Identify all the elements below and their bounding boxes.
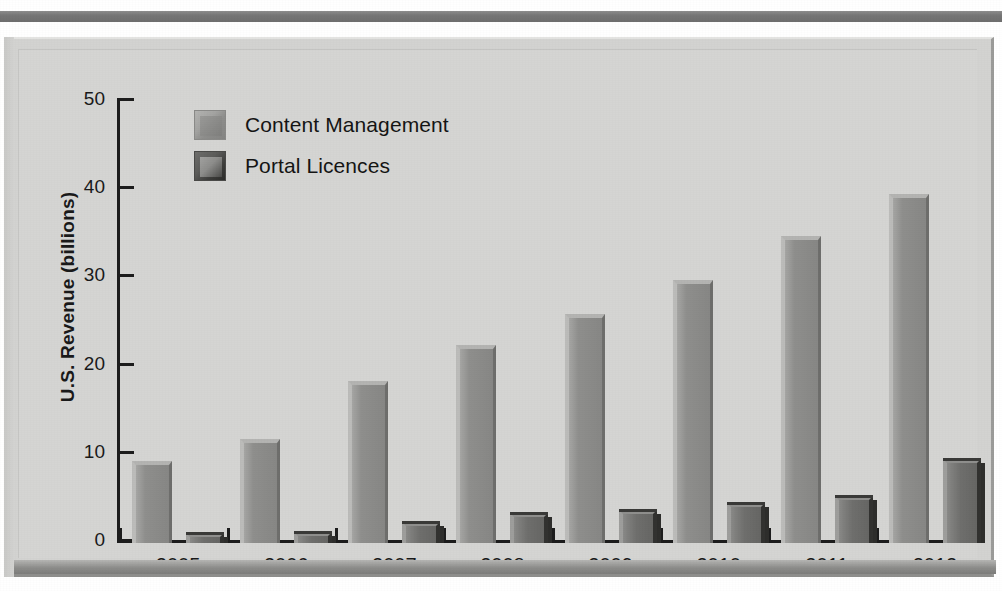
legend-swatch-content-management	[194, 110, 226, 140]
bar-top-shadow	[510, 512, 548, 515]
page-top-rule	[0, 11, 1002, 22]
bar-face	[727, 503, 765, 543]
bar-content-management-2010	[673, 280, 713, 543]
y-axis-tick-labels: 01020304050	[71, 50, 105, 590]
y-axis-tick-label: 20	[71, 353, 105, 375]
legend-label-content-management: Content Management	[245, 113, 449, 137]
bar-top-shadow	[186, 532, 224, 535]
bar-content-management-2011	[781, 236, 821, 543]
y-axis-tick-mark	[117, 451, 134, 454]
legend-label-portal-licences: Portal Licences	[245, 154, 390, 178]
legend-item-content-management: Content Management	[194, 110, 449, 140]
bar-top-shadow	[835, 495, 873, 498]
bar-top-shadow	[943, 458, 981, 461]
legend-item-portal-licences: Portal Licences	[194, 151, 449, 181]
figure-frame-bottom-lip	[12, 560, 996, 574]
bar-top-shadow	[619, 509, 657, 512]
bar-face	[673, 280, 713, 543]
bar-face	[619, 510, 657, 543]
bar-portal-licences-2009	[619, 510, 657, 543]
bar-right-shadow	[548, 517, 552, 543]
bar-chart-plot: Content Management Portal Licences U.S. …	[19, 50, 1002, 590]
y-axis-tick-label: 40	[71, 176, 105, 198]
figure-inner-panel: Content Management Portal Licences U.S. …	[18, 49, 977, 558]
bar-face	[510, 513, 548, 543]
bar-face	[348, 381, 388, 543]
bar-face	[132, 461, 172, 543]
bar-face	[781, 236, 821, 543]
chart-legend: Content Management Portal Licences	[194, 110, 449, 192]
y-axis-tick-mark	[117, 274, 134, 277]
bar-content-management-2008	[456, 345, 496, 543]
y-axis-tick-mark	[117, 363, 134, 366]
figure-frame-left-lip	[4, 37, 14, 577]
legend-swatch-portal-licences	[194, 151, 226, 181]
bar-content-management-2012	[889, 194, 929, 543]
bar-portal-licences-2008	[510, 513, 548, 543]
y-axis-tick-mark	[117, 98, 134, 101]
figure-frame: Content Management Portal Licences U.S. …	[4, 37, 994, 577]
bar-portal-licences-2005	[186, 533, 224, 543]
bar-portal-licences-2011	[835, 496, 873, 543]
bar-portal-licences-2006	[294, 532, 332, 543]
bar-face	[240, 439, 280, 543]
y-axis-tick-label: 30	[71, 264, 105, 286]
bar-portal-licences-2007	[402, 522, 440, 543]
bar-right-shadow	[440, 526, 444, 543]
y-axis-line	[117, 99, 120, 543]
bar-content-management-2005	[132, 461, 172, 543]
bar-portal-licences-2012	[943, 459, 981, 543]
bar-face	[565, 314, 605, 543]
bar-content-management-2009	[565, 314, 605, 543]
y-axis-tick-label: 10	[71, 441, 105, 463]
bar-content-management-2007	[348, 381, 388, 543]
bar-face	[943, 459, 981, 543]
y-axis-tick-label: 50	[71, 88, 105, 110]
bar-face	[835, 496, 873, 543]
bar-face	[402, 522, 440, 543]
bar-right-shadow	[224, 537, 228, 543]
bar-face	[456, 345, 496, 543]
bar-right-shadow	[657, 514, 661, 543]
y-axis-tick-mark	[117, 186, 134, 189]
bar-top-shadow	[294, 531, 332, 534]
bar-right-shadow	[981, 463, 985, 543]
y-axis-tick-label: 0	[71, 529, 105, 551]
bar-content-management-2006	[240, 439, 280, 543]
bar-top-shadow	[727, 502, 765, 505]
bar-right-shadow	[332, 536, 336, 543]
bar-right-shadow	[765, 507, 769, 543]
bar-right-shadow	[873, 500, 877, 543]
bar-face	[889, 194, 929, 543]
bar-top-shadow	[402, 521, 440, 524]
x-axis-tick-mark	[119, 528, 122, 540]
bar-portal-licences-2010	[727, 503, 765, 543]
